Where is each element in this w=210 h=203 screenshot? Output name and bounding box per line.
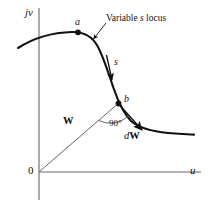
point-b-label: b <box>124 94 129 104</box>
variable-s-locus-label: Variable s locus <box>106 14 166 24</box>
point-a-marker <box>75 29 81 35</box>
vector-w-label: W <box>63 116 74 127</box>
locus-label-suffix: locus <box>144 13 166 23</box>
variable-s-locus-curve <box>18 32 194 135</box>
locus-leader-line <box>94 23 107 39</box>
s-direction-label: s <box>114 57 118 67</box>
figure-container: jv a Variable s locus s b W 90° dW 0 u <box>0 0 210 203</box>
horizontal-axis-label: u <box>190 165 196 176</box>
origin-label: 0 <box>28 165 34 176</box>
point-a-label: a <box>75 17 80 27</box>
dw-label-w: W <box>129 130 140 141</box>
vector-w-line <box>40 105 118 172</box>
vector-dw-label: dW <box>124 131 140 142</box>
right-angle-label: 90° <box>109 119 122 128</box>
locus-label-prefix: Variable <box>106 13 140 23</box>
vertical-axis-label: jv <box>25 7 33 18</box>
vector-dw-line <box>119 105 142 131</box>
